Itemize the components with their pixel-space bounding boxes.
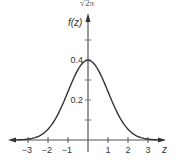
normal-distribution-chart: √2π −3−2−1123 z 0.20.4 f(z) [0, 0, 176, 160]
x-tick-label: −1 [62, 145, 72, 155]
y-axis-up-arrow-icon [86, 13, 91, 22]
x-axis-label: z [161, 144, 167, 155]
x-tick-label: 2 [125, 145, 130, 155]
y-tick-label: 0.4 [70, 55, 83, 65]
x-tick-label: 3 [145, 145, 150, 155]
x-tick-label: 1 [105, 145, 110, 155]
x-tick-label: −3 [22, 145, 32, 155]
y-axis-label: f(z) [68, 17, 82, 28]
y-tick-label: 0.2 [70, 95, 83, 105]
x-tick-label: −2 [42, 145, 52, 155]
formula-fragment: √2π [80, 0, 94, 8]
